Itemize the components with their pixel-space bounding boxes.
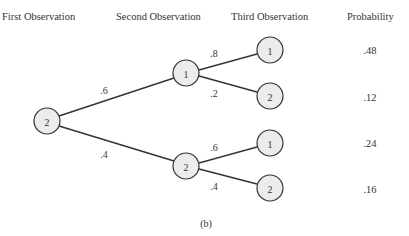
probability-2: .12 [363,92,376,103]
edge-bottom-2 [199,169,257,184]
node-third-3-label: 1 [268,139,273,150]
edge-label-root-bottom: .4 [100,149,108,160]
edge-label-top-1: .8 [210,48,218,59]
probability-3: .24 [363,138,376,149]
probability-tree: .6 .4 .8 .2 .6 .4 2 1 2 1 2 1 2 [0,0,409,236]
node-root-label: 2 [45,117,50,128]
node-third-4-label: 2 [268,184,273,195]
edge-root-top [59,78,174,116]
edge-root-bottom [59,126,174,161]
edge-bottom-1 [199,147,257,163]
edge-label-bottom-1: .6 [210,142,218,153]
probability-1: .48 [363,45,376,56]
edge-label-root-top: .6 [100,85,108,96]
node-second-top-label: 1 [184,69,189,80]
node-third-2-label: 2 [268,92,273,103]
edge-top-1 [199,54,257,70]
edge-label-bottom-2: .4 [210,181,218,192]
tree-edges [59,54,257,184]
edge-top-2 [199,76,257,92]
edge-label-top-2: .2 [210,88,218,99]
probability-4: .16 [363,184,376,195]
node-second-bottom-label: 2 [184,162,189,173]
figure-caption: (b) [200,218,212,229]
node-third-1-label: 1 [268,46,273,57]
